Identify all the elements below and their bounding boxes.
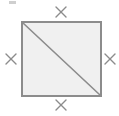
top-left-speck	[9, 1, 16, 4]
tick-mark-right	[105, 54, 115, 64]
tick-mark-left	[6, 54, 16, 64]
geometry-figure-canvas: Square with diagonal; all four sides mar…	[0, 0, 119, 116]
tick-mark-top	[56, 7, 66, 17]
geometry-figure-svg	[0, 0, 119, 116]
tick-mark-bottom	[56, 100, 66, 110]
